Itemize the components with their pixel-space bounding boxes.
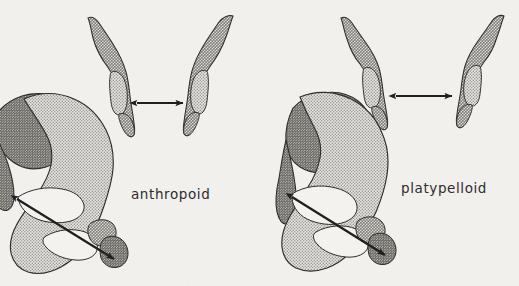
- illustration-canvas: anthropoid: [0, 0, 519, 286]
- pelvis-comparison-figure: anthropoid: [0, 0, 519, 286]
- ischial-tuberosity-platypelloid: [368, 233, 396, 264]
- panel-label-platypelloid: platypelloid: [401, 180, 487, 196]
- panel-label-anthropoid: anthropoid: [131, 186, 210, 202]
